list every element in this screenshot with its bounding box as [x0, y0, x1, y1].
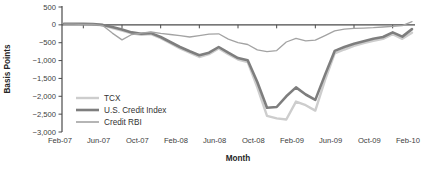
y-tick-label: −2,500 [33, 110, 56, 119]
x-tick-label: Feb-10 [396, 136, 420, 145]
basis-points-line-chart: Basis Points Month 5000−500−1,000−1,500−… [0, 0, 438, 171]
x-tick-label: Jun-08 [203, 136, 226, 145]
x-tick-label: Oct-08 [242, 136, 265, 145]
y-axis: 5000−500−1,000−1,500−2,000−2,500−3,000 [33, 3, 62, 137]
y-tick-label: 0 [52, 20, 56, 29]
y-tick-label: −1,500 [33, 74, 56, 83]
y-tick-label: 500 [43, 3, 56, 12]
y-axis-title: Basis Points [3, 44, 12, 94]
x-tick-label: Oct-09 [358, 136, 381, 145]
legend-label-tcx: TCX [104, 94, 121, 103]
y-tick-label: −1,000 [33, 56, 56, 65]
x-tick-label: Jun-07 [87, 136, 110, 145]
y-tick-label: −500 [39, 38, 56, 47]
x-tick-label: Feb-07 [48, 136, 72, 145]
legend-item-us-credit-index: U.S. Credit Index [76, 106, 166, 115]
x-axis-title: Month [226, 154, 251, 163]
plot-series [64, 22, 412, 120]
x-tick-label: Oct-07 [126, 136, 149, 145]
x-tick-label: Feb-09 [280, 136, 304, 145]
legend-label-us-credit-index: U.S. Credit Index [104, 106, 166, 115]
x-tick-label: Feb-08 [164, 136, 188, 145]
chart-canvas: Basis Points Month 5000−500−1,000−1,500−… [0, 0, 438, 171]
legend-item-tcx: TCX [76, 94, 121, 103]
x-tick-label: Jun-09 [319, 136, 342, 145]
y-tick-label: −2,000 [33, 92, 56, 101]
legend: TCX U.S. Credit Index Credit RBI [76, 94, 166, 127]
legend-label-credit-rbi: Credit RBI [104, 118, 142, 127]
legend-item-credit-rbi: Credit RBI [76, 118, 142, 127]
